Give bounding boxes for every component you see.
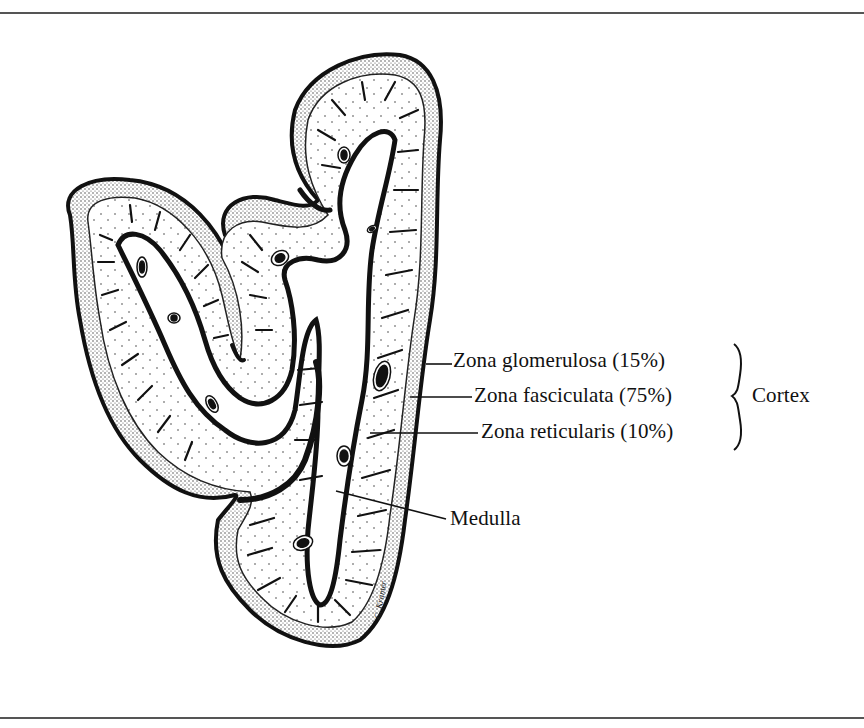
cortex-brace (732, 344, 741, 450)
label-zona-glomerulosa: Zona glomerulosa (15%) (453, 348, 665, 372)
label-zona-reticularis: Zona reticularis (10%) (481, 419, 673, 443)
adrenal-cross-section-illustration (0, 0, 864, 728)
label-medulla: Medulla (450, 506, 521, 530)
label-cortex: Cortex (752, 383, 810, 407)
label-zona-fasciculata: Zona fasciculata (75%) (474, 383, 672, 407)
